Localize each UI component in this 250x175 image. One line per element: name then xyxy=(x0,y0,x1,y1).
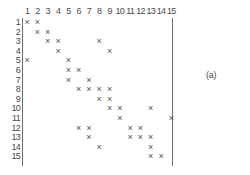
matrix-mark-r11-c15: × xyxy=(166,114,176,124)
matrix-mark-r3-c8: × xyxy=(94,37,104,47)
panel-caption-label: (a) xyxy=(206,70,216,80)
column-label-1: 1 xyxy=(22,5,32,17)
row-header-axis: 123456789101112131415 xyxy=(2,18,21,166)
column-label-6: 6 xyxy=(74,5,84,17)
matrix-mark-r10-c9: × xyxy=(104,104,114,114)
matrix-mark-r5-c1: × xyxy=(22,56,32,66)
column-label-8: 8 xyxy=(94,5,104,17)
matrix-mark-r9-c8: × xyxy=(94,95,104,105)
row-label-15: 15 xyxy=(2,152,20,162)
column-label-10: 10 xyxy=(115,5,125,17)
matrix-mark-r3-c3: × xyxy=(43,37,53,47)
column-label-12: 12 xyxy=(135,5,145,17)
column-label-4: 4 xyxy=(53,5,63,17)
matrix-mark-r13-c7: × xyxy=(84,133,94,143)
matrix-mark-r6-c6: × xyxy=(74,66,84,76)
matrix-mark-r13-c12: × xyxy=(135,133,145,143)
matrix-mark-r7-c5: × xyxy=(63,76,73,86)
matrix-mark-r1-c1: × xyxy=(22,18,32,28)
matrix-mark-r4-c9: × xyxy=(104,47,114,57)
matrix-mark-r15-c14: × xyxy=(156,152,166,162)
column-label-7: 7 xyxy=(84,5,94,17)
column-label-3: 3 xyxy=(43,5,53,17)
matrix-mark-r11-c10: × xyxy=(115,114,125,124)
incidence-matrix-figure: 123456789101112131415 123456789101112131… xyxy=(0,0,250,175)
column-label-11: 11 xyxy=(125,5,135,17)
matrix-mark-r8-c7: × xyxy=(84,85,94,95)
matrix-plot-area: ×××××××××××××××××××××××××××××××××××××× xyxy=(22,18,173,166)
column-label-14: 14 xyxy=(156,5,166,17)
matrix-mark-r2-c2: × xyxy=(32,28,42,38)
column-label-2: 2 xyxy=(32,5,42,17)
matrix-mark-r10-c13: × xyxy=(146,104,156,114)
column-label-13: 13 xyxy=(146,5,156,17)
matrix-mark-r15-c13: × xyxy=(146,152,156,162)
column-label-5: 5 xyxy=(63,5,73,17)
matrix-mark-r4-c4: × xyxy=(53,47,63,57)
column-label-9: 9 xyxy=(104,5,114,17)
column-header-axis: 123456789101112131415 xyxy=(22,5,174,18)
matrix-mark-r12-c6: × xyxy=(74,124,84,134)
matrix-mark-r8-c6: × xyxy=(74,85,84,95)
matrix-mark-r14-c8: × xyxy=(94,143,104,153)
matrix-mark-r13-c11: × xyxy=(125,133,135,143)
column-label-15: 15 xyxy=(166,5,176,17)
